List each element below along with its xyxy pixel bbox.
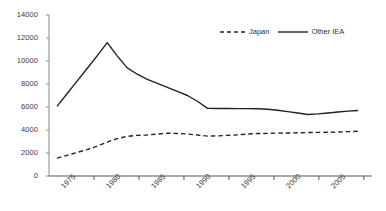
- series-line-japan: [57, 131, 358, 158]
- line-chart: 02000400060008000100001200014000 1975198…: [0, 0, 386, 211]
- legend-label-japan: Japan: [249, 27, 269, 36]
- axis-lines: [49, 15, 372, 176]
- x-axis-ticks: [94, 176, 364, 180]
- data-series-layer: [57, 43, 358, 159]
- legend-swatch-dashed-icon: [220, 28, 246, 36]
- chart-legend: Japan Other IEA: [220, 27, 344, 36]
- legend-entry-japan: Japan: [220, 27, 269, 36]
- series-line-other-iea: [57, 43, 358, 115]
- legend-label-other-iea: Other IEA: [311, 27, 344, 36]
- legend-entry-other-iea: Other IEA: [278, 27, 344, 36]
- legend-swatch-solid-icon: [278, 28, 308, 36]
